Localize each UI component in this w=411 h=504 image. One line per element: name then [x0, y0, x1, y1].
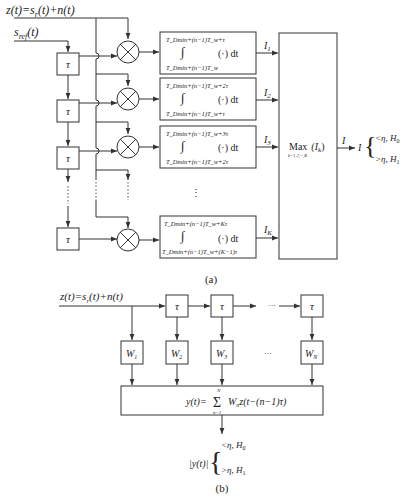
delay-block-aK: τ	[57, 228, 79, 250]
max-output-label: I	[341, 135, 346, 146]
delay-block-b1: τ	[166, 295, 188, 317]
svg-text:(·) dt: (·) dt	[218, 48, 238, 60]
caption-a: (a)	[205, 273, 218, 286]
weight-block-N: WN	[301, 341, 323, 364]
svg-text:T_Dmin+(n−1)T_w+2τ: T_Dmin+(n−1)T_w+2τ	[166, 158, 229, 166]
svg-text:I: I	[357, 142, 362, 153]
svg-text:>η, H1: >η, H1	[221, 465, 246, 476]
integrator-ellipsis: ⋮	[191, 187, 201, 198]
svg-text:Σ: Σ	[213, 395, 221, 410]
caption-b: (b)	[216, 482, 229, 495]
integrator-3: T_Dmin+(n−1)T_w+3τ ∫ T_Dmin+(n−1)T_w+2τ …	[160, 126, 256, 168]
block-diagram: z(t)=sr(t)+n(t) sref(t) τ τ τ	[0, 0, 411, 504]
svg-text:(·) dt: (·) dt	[218, 142, 238, 154]
delay-block-a2: τ	[57, 100, 79, 122]
delay-block-bN: τ	[301, 295, 323, 317]
summation-block: y(t)= Σ N n=1 Wnz(t−(n−1)τ)	[121, 386, 323, 415]
weight-block-1: W1	[121, 341, 143, 364]
svg-text:T_Dmin+(n−1)T_w+3τ: T_Dmin+(n−1)T_w+3τ	[166, 130, 229, 138]
input-signal-label-a: z(t)=sr(t)+n(t)	[5, 3, 75, 19]
delay-block-a1: τ	[57, 53, 79, 75]
svg-text:T_Dmin+(n−1)T_w+(K−1)τ: T_Dmin+(n−1)T_w+(K−1)τ	[162, 248, 238, 256]
integrator-1: T_Dmin+(n−1)T_w+τ ∫ T_Dmin+(n−1)T_w (·) …	[160, 32, 256, 74]
svg-text:n=1: n=1	[213, 410, 221, 415]
svg-text:(·) dt: (·) dt	[218, 94, 238, 106]
delay-block-b2: τ	[211, 295, 233, 317]
svg-text:<η, H0: <η, H0	[375, 133, 400, 144]
svg-text:N: N	[216, 388, 221, 393]
multiplier-3	[117, 136, 139, 158]
integrator-2: T_Dmin+(n−1)T_w+2τ ∫ T_Dmin+(n−1)T_w+τ (…	[160, 78, 256, 120]
svg-text:(·) dt: (·) dt	[218, 233, 238, 245]
delay-block-a3: τ	[57, 147, 79, 169]
reference-signal-label: sref(t)	[14, 25, 39, 41]
decision-b: |y(t)| { <η, H0 >η, H1	[189, 440, 246, 477]
max-block: Max(Ik) k=1,2,···,K	[279, 33, 337, 259]
multiplier-2	[117, 88, 139, 110]
svg-text:>η, H1: >η, H1	[375, 154, 400, 165]
integrator-K: T_Dmin+(n−1)T_w+Kτ ∫ T_Dmin+(n−1)T_w+(K−…	[160, 216, 256, 258]
svg-text:<η, H0: <η, H0	[221, 440, 246, 451]
output-I1: I1	[263, 40, 271, 53]
diagram-b: z(t)=sr(t)+n(t) τ τ ··· τ W1	[59, 290, 323, 495]
diagram-a: z(t)=sr(t)+n(t) sref(t) τ τ τ	[5, 3, 400, 286]
input-signal-label-b: z(t)=sr(t)+n(t)	[59, 290, 123, 305]
multiplier-K	[117, 229, 139, 251]
multiplier-1	[117, 41, 139, 63]
svg-text:T_Dmin+(n−1)T_w: T_Dmin+(n−1)T_w	[166, 64, 219, 72]
svg-text:|y(t)|: |y(t)|	[189, 458, 208, 470]
svg-text:T_Dmin+(n−1)T_w+Kτ: T_Dmin+(n−1)T_w+Kτ	[164, 220, 228, 228]
svg-text:y(t)=: y(t)=	[185, 396, 207, 408]
decision-a: I { <η, H0 >η, H1	[357, 131, 400, 165]
weight-block-3: W3	[211, 341, 233, 364]
weight-ellipsis: ···	[264, 349, 272, 358]
delay-ellipsis: ···	[268, 301, 276, 310]
weight-block-2: W2	[166, 341, 188, 364]
svg-text:T_Dmin+(n−1)T_w+τ: T_Dmin+(n−1)T_w+τ	[166, 36, 225, 44]
svg-text:T_Dmin+(n−1)T_w+2τ: T_Dmin+(n−1)T_w+2τ	[166, 82, 229, 90]
svg-text:T_Dmin+(n−1)T_w+τ: T_Dmin+(n−1)T_w+τ	[166, 110, 225, 118]
output-I2: I2	[263, 87, 271, 100]
output-I3: I3	[263, 134, 271, 147]
output-IK: IK	[263, 224, 272, 237]
